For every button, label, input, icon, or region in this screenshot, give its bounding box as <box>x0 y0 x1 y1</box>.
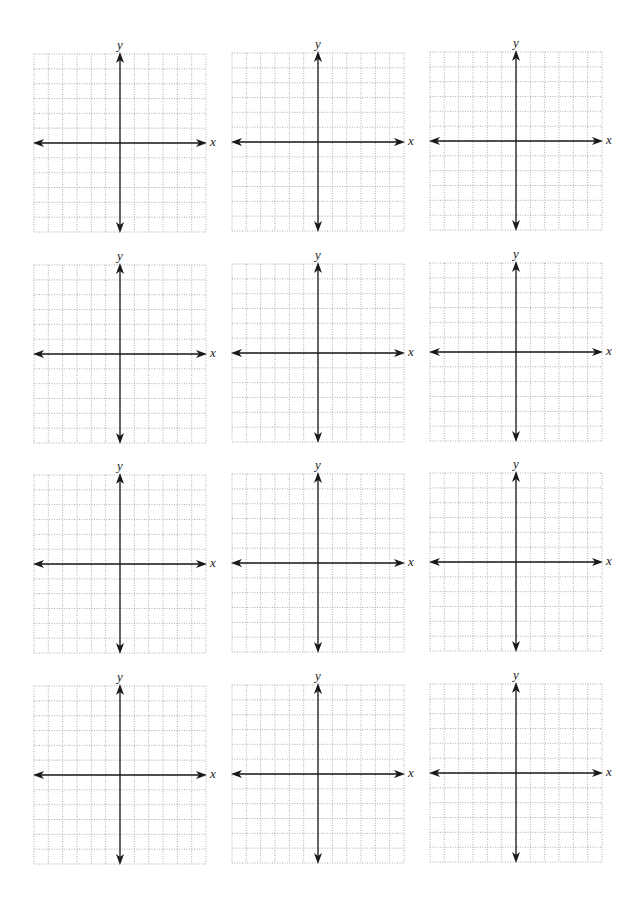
coordinate-plane-5: y x <box>232 264 404 442</box>
y-axis-label: y <box>513 35 519 51</box>
grid-with-axes <box>430 684 602 862</box>
coordinate-plane-7: y x <box>34 475 206 653</box>
y-axis-label: y <box>117 248 123 264</box>
coordinate-plane-9: y x <box>430 473 602 651</box>
grid-with-axes <box>34 475 206 653</box>
coordinate-plane-12: y x <box>430 684 602 862</box>
y-axis-label: y <box>315 668 321 684</box>
x-axis-label: x <box>408 765 414 781</box>
grid-with-axes <box>34 54 206 232</box>
y-axis-label: y <box>315 247 321 263</box>
grid-with-axes <box>232 474 404 652</box>
x-axis-label: x <box>408 554 414 570</box>
x-axis-label: x <box>210 345 216 361</box>
grid-with-axes <box>34 686 206 864</box>
y-axis-label: y <box>513 456 519 472</box>
coordinate-plane-11: y x <box>232 685 404 863</box>
coordinate-plane-1: y x <box>34 54 206 232</box>
grid-with-axes <box>430 473 602 651</box>
coordinate-plane-6: y x <box>430 263 602 441</box>
x-axis-label: x <box>408 133 414 149</box>
y-axis-label: y <box>315 457 321 473</box>
grid-with-axes <box>430 52 602 230</box>
x-axis-label: x <box>408 344 414 360</box>
grid-with-axes <box>232 53 404 231</box>
x-axis-label: x <box>606 553 612 569</box>
x-axis-label: x <box>210 134 216 150</box>
y-axis-label: y <box>513 667 519 683</box>
y-axis-label: y <box>117 669 123 685</box>
coordinate-plane-10: y x <box>34 686 206 864</box>
y-axis-label: y <box>315 36 321 52</box>
grid-with-axes <box>232 685 404 863</box>
y-axis-label: y <box>117 37 123 53</box>
grid-with-axes <box>34 265 206 443</box>
coordinate-plane-8: y x <box>232 474 404 652</box>
x-axis-label: x <box>606 764 612 780</box>
x-axis-label: x <box>606 343 612 359</box>
grid-with-axes <box>430 263 602 441</box>
coordinate-plane-4: y x <box>34 265 206 443</box>
x-axis-label: x <box>210 555 216 571</box>
grid-with-axes <box>232 264 404 442</box>
y-axis-label: y <box>117 458 123 474</box>
x-axis-label: x <box>210 766 216 782</box>
coordinate-plane-3: y x <box>430 52 602 230</box>
y-axis-label: y <box>513 246 519 262</box>
x-axis-label: x <box>606 132 612 148</box>
coordinate-plane-2: y x <box>232 53 404 231</box>
